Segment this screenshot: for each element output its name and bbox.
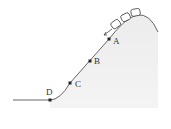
- hill-diagram: [0, 0, 171, 129]
- point-label-c: C: [75, 80, 81, 89]
- point-label-a: A: [113, 37, 120, 46]
- hill-shape: [50, 15, 158, 108]
- point-label-b: B: [94, 57, 100, 66]
- point-label-d: D: [46, 88, 53, 97]
- motion-arrow-icon: [104, 29, 112, 35]
